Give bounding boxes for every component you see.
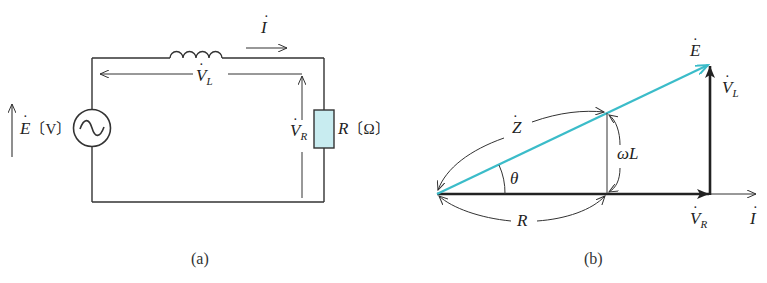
resistor-voltage-label: ·VR [290,122,307,139]
z-bracket [438,138,504,190]
r-label: R [517,212,527,229]
caption-b: (b) [584,250,603,268]
e-vector [437,65,708,194]
caption-a: (a) [191,250,209,268]
vl-label: ·VL [722,79,739,96]
theta-label: θ [510,170,518,187]
phasor-diagram [437,65,756,221]
e-label: ·E [690,42,700,59]
resistor-label: R〔Ω〕 [338,120,390,137]
current-label: ·I [261,19,267,36]
inductor-icon [170,52,222,58]
source-label: ·E〔V〕 [20,120,71,137]
figure: ·I ·VL ·E〔V〕 ·VR R〔Ω〕 (a) ·E ·VL ·Z ωL θ… [0,0,767,283]
wl-label: ωL [617,145,638,162]
wl-bracket [609,115,620,145]
diagram-graphics [0,0,767,283]
i-label: ·I [750,210,756,227]
inductor-voltage-label: ·VL [196,67,213,84]
vr-label: ·VR [690,210,707,227]
theta-arc [499,165,505,194]
z-label: ·Z [510,119,523,136]
resistor-icon [314,110,334,148]
r-bracket [439,196,511,221]
